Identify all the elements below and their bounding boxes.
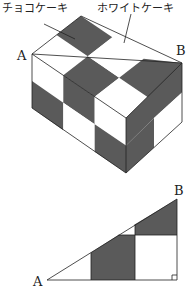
point-a-triangle: A [32, 274, 43, 288]
label-white-cake: ホワイトケーキ [97, 2, 174, 15]
triangle-section [47, 199, 177, 280]
point-a-cube: A [16, 48, 27, 63]
point-b-cube: B [176, 43, 186, 58]
diagram-canvas: チョコケーキ ホワイトケーキ A B A B [0, 0, 189, 288]
label-choco-cake: チョコケーキ [2, 2, 68, 15]
cube [32, 14, 182, 173]
point-b-triangle: B [174, 183, 184, 198]
